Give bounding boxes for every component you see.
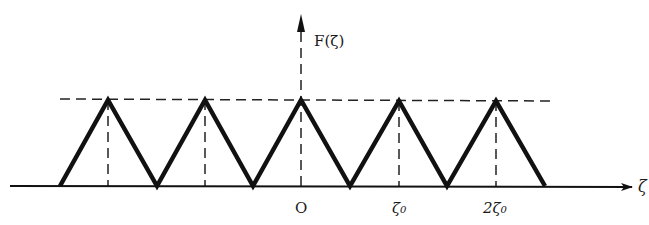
tick-zeta0: ζ₀ xyxy=(392,199,406,217)
tick-2zeta0: 2ζ₀ xyxy=(482,199,507,217)
peak-level-dashed-line xyxy=(60,99,555,101)
triangular-function-diagram: F(ζ) ζ O ζ₀ 2ζ₀ xyxy=(0,0,649,225)
zeta-axis-label: ζ xyxy=(638,177,648,196)
f-axis-arrow-icon xyxy=(297,14,305,32)
triangle-wave xyxy=(60,100,545,186)
tick-origin: O xyxy=(295,199,307,217)
zeta-axis xyxy=(10,186,632,187)
f-axis-label: F(ζ) xyxy=(314,32,344,50)
